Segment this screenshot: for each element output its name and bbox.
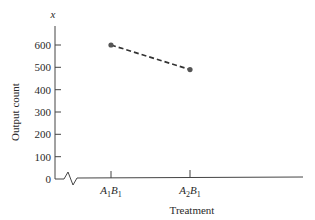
y-tick-labels: 600 500 400 300 200 100 0: [35, 39, 52, 185]
y-tick-400: 400: [35, 84, 52, 96]
y-tick-100: 100: [35, 151, 52, 163]
y-tick-500: 500: [35, 61, 52, 73]
x-tick-label-a1b1: A1B1: [99, 184, 121, 199]
y-axis-symbol: x: [50, 8, 56, 20]
data-point-a1b1: [108, 42, 113, 47]
y-tick-0: 0: [46, 173, 52, 185]
series-dashed-line: [111, 45, 190, 70]
data-point-a2b1: [187, 67, 192, 72]
y-axis-title: Output count: [9, 83, 21, 141]
y-ticks: [55, 45, 61, 157]
y-tick-300: 300: [35, 106, 52, 118]
x-tick-label-a2b1: A2B1: [178, 184, 200, 199]
x-axis-title: Treatment: [170, 204, 215, 216]
y-tick-600: 600: [35, 39, 52, 51]
y-tick-200: 200: [35, 128, 52, 140]
chart: x 600 500 400 300 200 100 0 Output count…: [0, 0, 315, 220]
